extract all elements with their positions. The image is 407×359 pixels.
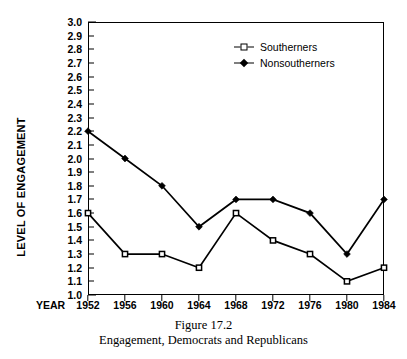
- y-tick-label: 1.1: [52, 276, 82, 287]
- figure-caption: Figure 17.2 Engagement, Democrats and Re…: [0, 318, 407, 348]
- caption-title: Figure 17.2: [0, 318, 407, 333]
- x-tick-label: 1972: [252, 300, 294, 311]
- y-tick-label: 2.2: [52, 126, 82, 137]
- y-tick-mark: [88, 76, 94, 77]
- x-tick-mark: [235, 295, 236, 301]
- y-tick-label: 1.4: [52, 235, 82, 246]
- legend-label: Nonsoutherners: [260, 58, 335, 69]
- y-tick-label: 1.9: [52, 167, 82, 178]
- x-axis-title: YEAR: [36, 300, 65, 311]
- y-tick-mark: [88, 103, 94, 104]
- y-tick-mark: [88, 199, 94, 200]
- x-tick-mark: [309, 295, 310, 301]
- y-tick-mark: [88, 295, 96, 296]
- legend-item: Southerners: [234, 40, 364, 54]
- y-tick-mark: [88, 267, 94, 268]
- y-tick-label: 2.9: [52, 30, 82, 41]
- y-tick-mark: [88, 62, 94, 63]
- y-tick-label: 2.8: [52, 44, 82, 55]
- legend-marker: [241, 44, 248, 51]
- x-tick-mark: [383, 295, 384, 301]
- y-tick-mark: [88, 172, 94, 173]
- x-tick-label: 1964: [178, 300, 220, 311]
- x-tick-mark: [161, 295, 162, 301]
- y-tick-mark: [88, 35, 94, 36]
- open-square-marker-icon: [234, 41, 254, 53]
- x-tick-label: 1956: [104, 300, 146, 311]
- y-tick-mark: [88, 49, 94, 50]
- y-tick-label: 2.7: [52, 58, 82, 69]
- y-tick-label: 1.8: [52, 181, 82, 192]
- y-tick-mark: [88, 117, 94, 118]
- x-tick-mark: [272, 295, 273, 301]
- filled-diamond-marker-icon: [234, 57, 254, 69]
- y-tick-label: 1.3: [52, 249, 82, 260]
- legend-marker: [240, 59, 248, 67]
- y-tick-label: 1.5: [52, 222, 82, 233]
- y-tick-mark: [88, 226, 94, 227]
- y-tick-label: 2.4: [52, 99, 82, 110]
- y-tick-mark: [88, 213, 94, 214]
- y-tick-mark: [88, 90, 94, 91]
- y-tick-label: 1.7: [52, 194, 82, 205]
- y-tick-label: 1.6: [52, 208, 82, 219]
- y-tick-label: 2.5: [52, 85, 82, 96]
- x-tick-mark: [198, 295, 199, 301]
- x-tick-mark: [124, 295, 125, 301]
- x-tick-label: 1980: [326, 300, 368, 311]
- y-tick-mark: [88, 185, 94, 186]
- y-tick-label: 3.0: [52, 17, 82, 28]
- y-tick-mark: [88, 144, 94, 145]
- y-tick-mark: [88, 158, 94, 159]
- y-axis-title-text: LEVEL OF ENGAGEMENT: [15, 117, 27, 256]
- y-tick-label: 2.6: [52, 71, 82, 82]
- x-tick-label: 1968: [215, 300, 257, 311]
- x-tick-label: 1976: [289, 300, 331, 311]
- y-tick-label: 1.2: [52, 262, 82, 273]
- x-tick-label: 1984: [363, 300, 405, 311]
- figure-container: LEVEL OF ENGAGEMENT 3.02.92.82.72.62.52.…: [0, 0, 407, 359]
- y-tick-mark: [88, 131, 94, 132]
- x-tick-mark: [87, 295, 88, 301]
- y-tick-label: 2.3: [52, 112, 82, 123]
- y-tick-mark: [88, 281, 94, 282]
- caption-subtitle: Engagement, Democrats and Republicans: [0, 333, 407, 348]
- y-tick-mark: [88, 240, 94, 241]
- legend-item: Nonsoutherners: [234, 56, 364, 70]
- y-axis-title: LEVEL OF ENGAGEMENT: [9, 92, 33, 282]
- y-tick-label: 2.0: [52, 153, 82, 164]
- y-tick-mark: [88, 254, 94, 255]
- x-tick-label: 1952: [67, 300, 109, 311]
- legend-label: Southerners: [260, 42, 317, 53]
- y-tick-mark: [88, 22, 96, 23]
- legend: SouthernersNonsoutherners: [234, 40, 364, 72]
- x-tick-mark: [346, 295, 347, 301]
- y-tick-label: 2.1: [52, 140, 82, 151]
- x-tick-label: 1960: [141, 300, 183, 311]
